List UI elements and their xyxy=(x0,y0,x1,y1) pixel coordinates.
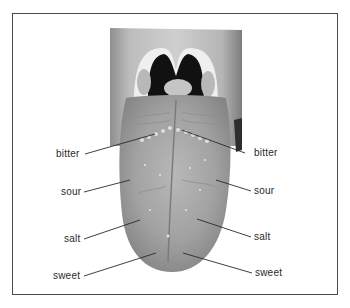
label-bitter-left: bitter xyxy=(56,149,79,159)
label-sour-right: sour xyxy=(254,186,274,196)
label-salt-left: salt xyxy=(64,234,80,244)
label-sweet-right: sweet xyxy=(255,268,282,278)
label-sour-left: sour xyxy=(61,187,81,197)
label-salt-right: salt xyxy=(254,232,270,242)
label-bitter-right: bitter xyxy=(254,148,277,158)
label-sweet-left: sweet xyxy=(53,271,80,281)
tongue-illustration xyxy=(0,0,350,308)
